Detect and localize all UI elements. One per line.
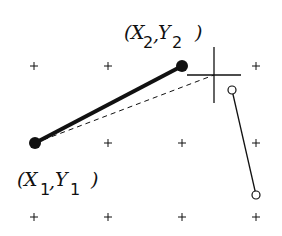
point-2-label: ( X 2 , Y 2 ) <box>124 21 202 52</box>
svg-text:1: 1 <box>70 180 80 199</box>
point-1-label: ( X 1 , Y 1 ) <box>17 168 98 199</box>
secondary-endpoint-top-icon[interactable] <box>228 86 236 94</box>
grid-plus-icon <box>178 213 186 221</box>
grid-plus-icon <box>178 139 186 147</box>
svg-text:): ) <box>90 168 98 190</box>
grid-plus-icon <box>252 213 260 221</box>
diagram-canvas: ( X 2 , Y 2 ) ( X 1 , Y 1 ) <box>0 0 282 236</box>
point-1-dot[interactable] <box>29 137 41 149</box>
grid-plus-icon <box>104 62 112 70</box>
point-2-dot[interactable] <box>176 60 188 72</box>
line-drawing-diagram: ( X 2 , Y 2 ) ( X 1 , Y 1 ) <box>0 0 282 236</box>
svg-text:): ) <box>194 21 202 43</box>
grid-plus-icon <box>252 62 260 70</box>
grid-plus-icon <box>30 62 38 70</box>
grid-plus-icon <box>104 139 112 147</box>
svg-text:2: 2 <box>172 33 182 52</box>
drawn-line-segment <box>35 66 182 143</box>
svg-text:Y: Y <box>158 21 173 43</box>
grid-plus-icon <box>252 139 260 147</box>
grid-plus-icon <box>104 213 112 221</box>
secondary-endpoint-bottom-icon[interactable] <box>252 191 260 199</box>
grid-plus-icon <box>30 213 38 221</box>
svg-text:2: 2 <box>143 33 153 52</box>
rubber-band-line <box>35 75 214 143</box>
svg-text:Y: Y <box>55 168 70 190</box>
svg-text:X: X <box>22 168 39 190</box>
